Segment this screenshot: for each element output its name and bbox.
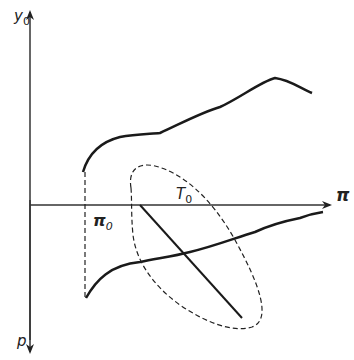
dashed-region — [130, 165, 262, 329]
y0-label: y0 — [13, 7, 30, 28]
pi-axis-label: π — [336, 185, 350, 205]
lower-curve — [86, 212, 323, 298]
upper-curve — [83, 78, 312, 172]
T0-label: T0 — [176, 185, 192, 206]
diagram-canvas: y0 p π π0 T0 — [0, 0, 354, 360]
pi0-label: π0 — [93, 211, 113, 233]
p-label: p — [16, 332, 27, 350]
T0-line — [140, 205, 242, 318]
